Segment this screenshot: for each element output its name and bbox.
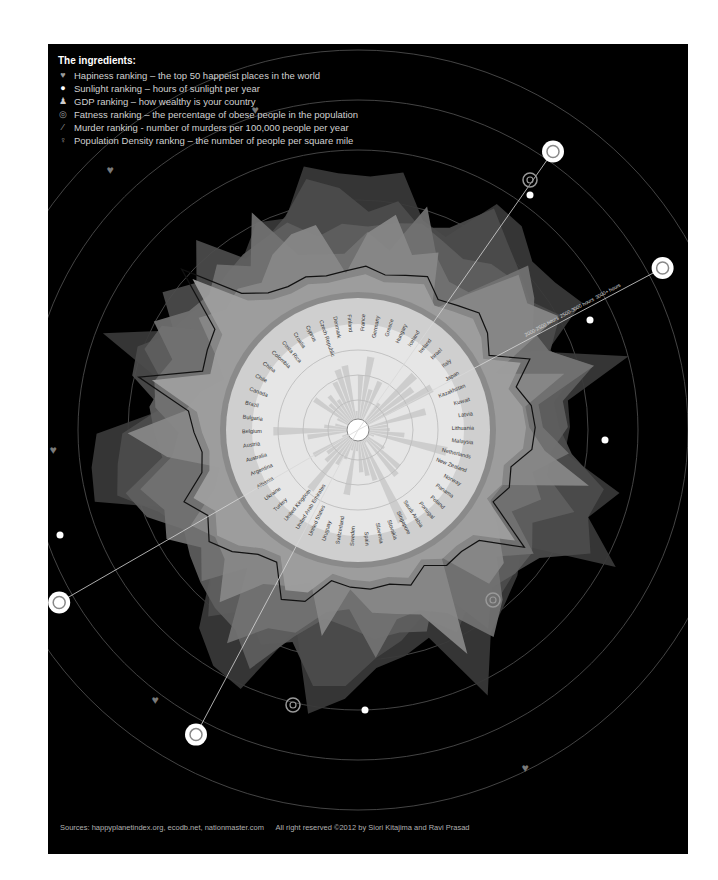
sun-icon bbox=[587, 317, 594, 324]
country-label: France bbox=[359, 314, 366, 331]
legend-item-happiness: ♥ Hapiness ranking – the top 50 happeist… bbox=[58, 69, 358, 82]
sun-icon bbox=[652, 257, 674, 279]
legend-item-fatness: ◎ Fatness ranking – the percentage of ob… bbox=[58, 108, 358, 121]
money-bag-icon bbox=[542, 141, 564, 163]
heart-icon: ♥ bbox=[58, 71, 68, 81]
legend-item-population: ♀ Population Density rankng – the number… bbox=[58, 134, 358, 147]
infographic-poster: CanadaChileChinaColombiaCosta RicaCroati… bbox=[48, 44, 688, 854]
legend-label: Population Density rankng – the number o… bbox=[74, 134, 353, 147]
sun-icon bbox=[527, 192, 534, 199]
legend-label: Hapiness ranking – the top 50 happeist p… bbox=[74, 69, 320, 82]
target-rings-icon: ◎ bbox=[58, 110, 68, 120]
legend-item-sunlight: ● Sunlight ranking – hours of sunlight p… bbox=[58, 82, 358, 95]
footer-credits: Sources: happyplanetindex.org, ecodb.net… bbox=[60, 823, 480, 832]
heart-icon: ♥ bbox=[106, 163, 113, 177]
legend-item-murder: ⁄ Murder ranking - number of murders per… bbox=[58, 121, 358, 134]
legend-label: GDP ranking – how wealthy is your countr… bbox=[74, 95, 255, 108]
country-label: Belgium bbox=[242, 428, 262, 434]
sun-icon bbox=[362, 707, 369, 714]
country-label: Sweden bbox=[349, 526, 356, 546]
legend-label: Murder ranking - number of murders per 1… bbox=[74, 121, 349, 134]
legend-label: Fatness ranking – the percentage of obes… bbox=[74, 108, 358, 121]
sun-icon: ● bbox=[58, 84, 68, 94]
legend-item-gdp: ♟ GDP ranking – how wealthy is your coun… bbox=[58, 95, 358, 108]
heart-icon: ♥ bbox=[521, 761, 528, 775]
sun-icon bbox=[57, 532, 64, 539]
legend: The ingredients: ♥ Hapiness ranking – th… bbox=[58, 54, 358, 147]
sources-text: Sources: happyplanetindex.org, ecodb.net… bbox=[60, 823, 264, 832]
heart-icon: ♥ bbox=[151, 693, 158, 707]
country-label: Spain bbox=[363, 531, 370, 545]
country-label: Lithuania bbox=[452, 425, 475, 431]
target-rings-icon bbox=[286, 698, 300, 712]
heart-icon bbox=[48, 592, 70, 614]
target-rings-icon bbox=[185, 724, 207, 746]
sun-icon bbox=[602, 437, 609, 444]
legend-label: Sunlight ranking – hours of sunlight per… bbox=[74, 82, 260, 95]
heart-icon: ♥ bbox=[49, 443, 56, 457]
money-bag-icon: ♟ bbox=[58, 97, 68, 107]
person-icon: ♀ bbox=[58, 136, 68, 146]
radial-chart: CanadaChileChinaColombiaCosta RicaCroati… bbox=[48, 44, 688, 854]
legend-title: The ingredients: bbox=[58, 54, 358, 67]
knife-icon: ⁄ bbox=[58, 123, 68, 133]
rights-text: All right reserved ©2012 by Siori Kitaji… bbox=[276, 823, 470, 832]
